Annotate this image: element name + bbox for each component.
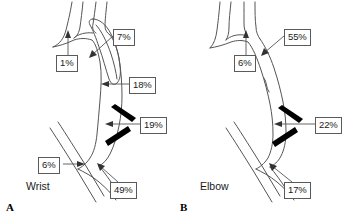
callout-wrist-6[interactable]: 49% bbox=[110, 182, 137, 199]
leader-line-b2 bbox=[264, 36, 284, 53]
arrowhead-b3 bbox=[274, 121, 282, 127]
arrowhead-a3 bbox=[101, 81, 109, 87]
vessel-upper-left-lateral-b bbox=[210, 2, 220, 48]
wedge-marker-upper-b bbox=[278, 105, 303, 123]
callout-wrist-3[interactable]: 18% bbox=[129, 77, 156, 94]
vessel-main-right-wall-b bbox=[260, 39, 286, 167]
vessel-upper-right-medial bbox=[93, 2, 96, 33]
vessel-confluence-upper bbox=[74, 33, 93, 38]
wedge-marker-upper bbox=[111, 104, 136, 122]
callout-wrist-4[interactable]: 19% bbox=[140, 117, 167, 134]
arrowhead-b1 bbox=[243, 30, 249, 38]
panel-wrist: 1% 7% 18% 19% 6% 49% Wrist A bbox=[0, 0, 174, 221]
panel-letter-a: A bbox=[6, 201, 14, 213]
callout-elbow-3[interactable]: 22% bbox=[315, 117, 342, 134]
region-label-wrist: Wrist bbox=[26, 180, 50, 192]
vessel-upper-right-medial-b bbox=[244, 2, 247, 35]
vessel-oblique-lower-wall-b bbox=[226, 128, 272, 202]
arrowhead-a4 bbox=[105, 121, 113, 127]
panel-letter-b: B bbox=[180, 201, 187, 213]
callout-elbow-1[interactable]: 6% bbox=[234, 55, 256, 72]
vessel-upper-left-lateral bbox=[53, 2, 72, 47]
vessel-confluence-upper-b bbox=[226, 35, 244, 40]
callout-wrist-5[interactable]: 6% bbox=[38, 157, 60, 174]
vessel-upper-left-medial-b bbox=[226, 2, 231, 40]
region-label-elbow: Elbow bbox=[200, 180, 229, 192]
vessel-upper-left-medial bbox=[74, 2, 83, 38]
vessel-upper-right-lateral-b bbox=[255, 2, 260, 39]
callout-wrist-2[interactable]: 7% bbox=[113, 29, 135, 46]
callout-elbow-2[interactable]: 55% bbox=[284, 29, 311, 46]
panel-elbow: 6% 55% 22% 17% Elbow B bbox=[174, 0, 348, 221]
figure-container: 1% 7% 18% 19% 6% 49% Wrist A bbox=[0, 0, 349, 221]
callout-wrist-1[interactable]: 1% bbox=[56, 55, 78, 72]
callout-elbow-4[interactable]: 17% bbox=[284, 182, 311, 199]
